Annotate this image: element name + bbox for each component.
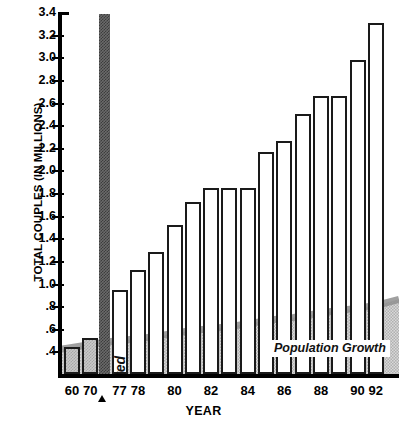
bar-60 — [64, 347, 80, 374]
bar-90 — [350, 60, 366, 374]
bar-79 — [148, 252, 164, 374]
y-axis-tick-label: 1.2 — [22, 254, 56, 268]
y-axis-tick-label: 1.4 — [22, 231, 56, 245]
bar-84 — [240, 188, 256, 374]
x-axis-tick-label-92: 92 — [369, 383, 383, 398]
y-axis-tick-label: .8 — [22, 299, 56, 313]
bar-88 — [313, 96, 329, 374]
x-axis-tick-label-88: 88 — [314, 383, 328, 398]
bar-87 — [295, 114, 311, 374]
x-axis-title: YEAR — [0, 404, 407, 418]
x-axis-tick-label-78: 78 — [131, 383, 145, 398]
x-axis-tick-label-82: 82 — [204, 383, 218, 398]
y-axis-tick-label: 2.6 — [22, 96, 56, 110]
x-axis-tick-labels: 6070777880828486889092 — [0, 383, 407, 405]
y-axis-tick-label: 2.8 — [22, 73, 56, 87]
bar-82 — [203, 188, 219, 374]
y-axis-tick-label: 3.0 — [22, 50, 56, 64]
x-axis-line — [58, 374, 399, 378]
bar-80 — [167, 225, 183, 374]
x-axis-tick-label-77: 77 — [112, 383, 126, 398]
y-axis-tick-label: .4 — [22, 344, 56, 358]
y-axis-tick-label: 2.2 — [22, 141, 56, 155]
y-axis-tick-label: 2.0 — [22, 163, 56, 177]
y-axis-tick-labels: 3.43.23.02.82.62.42.22.01.81.61.41.21.0.… — [22, 0, 56, 426]
bar-89 — [331, 96, 347, 374]
x-axis-tick-label-84: 84 — [240, 383, 254, 398]
x-axis-tick-label-86: 86 — [277, 383, 291, 398]
population-growth-label: Population Growth — [270, 340, 390, 357]
bar-83 — [221, 188, 237, 374]
event-marker-label: Religious Principles Separated — [112, 356, 128, 374]
bar-78 — [130, 270, 146, 374]
x-axis-tick-label-70: 70 — [83, 383, 97, 398]
y-axis-tick-label: 1.0 — [22, 277, 56, 291]
x-axis-tick-label-60: 60 — [65, 383, 79, 398]
y-axis-tick-label: 2.4 — [22, 118, 56, 132]
bar-70 — [82, 338, 98, 374]
event-marker-bar — [99, 14, 110, 374]
plot-frame: Religious Principles Separated Populatio… — [58, 12, 399, 378]
y-axis-tick-label: .6 — [22, 322, 56, 336]
event-marker-triangle-icon — [98, 395, 106, 402]
bar-chart: TOTAL COUPLES (IN MILLIONS) 3.43.23.02.8… — [0, 0, 407, 426]
y-axis-tick-label: 3.2 — [22, 28, 56, 42]
x-axis-tick-label-90: 90 — [350, 383, 364, 398]
y-axis-tick-label: 3.4 — [22, 5, 56, 19]
y-axis-tick-label: 1.6 — [22, 209, 56, 223]
bar-92 — [368, 23, 384, 374]
y-axis-tick-label: 1.8 — [22, 186, 56, 200]
bar-81 — [185, 202, 201, 374]
plot-area: Religious Principles Separated Populatio… — [62, 12, 399, 374]
x-axis-tick-label-80: 80 — [167, 383, 181, 398]
